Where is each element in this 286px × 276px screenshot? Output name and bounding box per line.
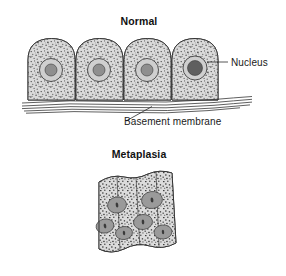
- basement-membrane-callout: Basement membrane: [124, 107, 222, 128]
- normal-panel-title: Normal: [121, 15, 158, 27]
- basement-membrane-label: Basement membrane: [124, 116, 222, 127]
- nucleus-core: [93, 64, 105, 76]
- columnar-cell: [74, 36, 126, 104]
- columnar-cell: [122, 36, 174, 104]
- columnar-cell-row: [26, 36, 222, 104]
- squamous-metaplasia-slab: [95, 166, 181, 258]
- diagram-canvas: Normal: [0, 0, 286, 276]
- nucleus-core: [45, 64, 57, 76]
- normal-panel: Normal: [22, 15, 268, 127]
- nucleus-core: [188, 61, 203, 76]
- metaplasia-panel-title: Metaplasia: [112, 148, 167, 160]
- nucleus-core: [141, 64, 153, 76]
- metaplasia-panel: Metaplasia: [95, 148, 181, 258]
- nucleus-label: Nucleus: [231, 57, 268, 68]
- epithelial-metaplasia-figure: Normal: [0, 0, 286, 276]
- columnar-cell: [26, 36, 78, 104]
- columnar-cell: [170, 36, 222, 104]
